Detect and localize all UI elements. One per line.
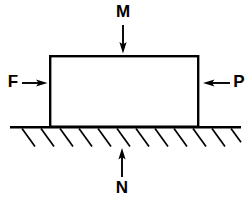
hatch-line: [155, 129, 168, 147]
hatch-line: [41, 129, 54, 147]
force-arrow-f: [22, 79, 48, 86]
hatch-line: [136, 129, 149, 147]
force-label-f: F: [8, 72, 18, 91]
free-body-diagram: M F P N: [0, 0, 250, 200]
force-label-p: P: [233, 72, 244, 91]
force-label-m: M: [116, 2, 130, 21]
force-label-n: N: [116, 178, 128, 197]
hatch-line: [22, 129, 35, 147]
hatch-line: [193, 129, 206, 147]
hatch-line: [117, 129, 130, 147]
hatch-line: [212, 129, 225, 147]
force-arrow-p: [203, 79, 230, 86]
diagram-canvas: M F P N: [0, 0, 250, 200]
hatch-line: [79, 129, 92, 147]
force-arrow-m: [119, 25, 126, 54]
hatch-line: [231, 129, 241, 143]
hatch-line: [98, 129, 111, 147]
hatch-line: [174, 129, 187, 147]
block-shape: [50, 56, 198, 127]
ground-hatching: [22, 129, 241, 147]
hatch-line: [60, 129, 73, 147]
force-arrow-n: [118, 148, 125, 177]
